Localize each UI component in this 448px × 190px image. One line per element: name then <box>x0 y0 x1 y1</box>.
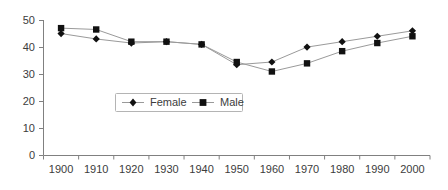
data-point-female-1990 <box>374 33 381 40</box>
y-tick-label-0: 0 <box>29 149 35 161</box>
x-tick-label-1920: 1920 <box>119 163 143 175</box>
data-point-male-1970 <box>304 60 310 66</box>
y-tick-label-20: 20 <box>23 95 35 107</box>
data-point-male-1960 <box>269 68 275 74</box>
data-point-male-1990 <box>374 40 380 46</box>
x-tick-label-1990: 1990 <box>365 163 389 175</box>
data-point-male-1980 <box>339 48 345 54</box>
y-axis-tick-labels: 50 40 30 20 10 0 <box>23 14 35 161</box>
data-point-female-1970 <box>303 44 310 51</box>
x-tick-label-1930: 1930 <box>154 163 178 175</box>
data-point-male-1940 <box>198 41 204 47</box>
data-point-male-1930 <box>163 38 169 44</box>
data-point-male-1910 <box>93 26 99 32</box>
line-chart-plot: 50 40 30 20 10 0 19001910192019301940195… <box>0 0 448 190</box>
legend-square-marker <box>200 99 207 106</box>
chart-legend: Female Male <box>116 94 244 112</box>
x-tick-label-1940: 1940 <box>189 163 213 175</box>
x-tick-label-1960: 1960 <box>260 163 284 175</box>
legend-label-female: Female <box>150 96 187 108</box>
x-axis-ticks <box>44 156 431 160</box>
data-point-female-1910 <box>93 35 100 42</box>
x-axis-tick-labels: 1900191019201930194019501960197019801990… <box>49 163 425 175</box>
legend-label-male: Male <box>220 96 244 108</box>
data-point-male-2000 <box>409 33 415 39</box>
data-point-female-1960 <box>268 58 275 65</box>
x-tick-label-1950: 1950 <box>225 163 249 175</box>
x-tick-label-1980: 1980 <box>330 163 354 175</box>
data-point-female-1980 <box>339 38 346 45</box>
chart-container: 50 40 30 20 10 0 19001910192019301940195… <box>0 0 448 190</box>
x-tick-label-2000: 2000 <box>400 163 424 175</box>
y-axis-ticks <box>39 21 44 156</box>
y-tick-label-50: 50 <box>23 14 35 26</box>
x-tick-label-1970: 1970 <box>295 163 319 175</box>
y-tick-label-10: 10 <box>23 122 35 134</box>
data-point-male-1900 <box>58 25 64 31</box>
y-tick-label-30: 30 <box>23 68 35 80</box>
data-point-male-1920 <box>128 38 134 44</box>
x-tick-label-1910: 1910 <box>84 163 108 175</box>
series-markers-group <box>57 25 416 75</box>
data-point-male-1950 <box>234 59 240 65</box>
x-tick-label-1900: 1900 <box>49 163 73 175</box>
y-tick-label-40: 40 <box>23 41 35 53</box>
